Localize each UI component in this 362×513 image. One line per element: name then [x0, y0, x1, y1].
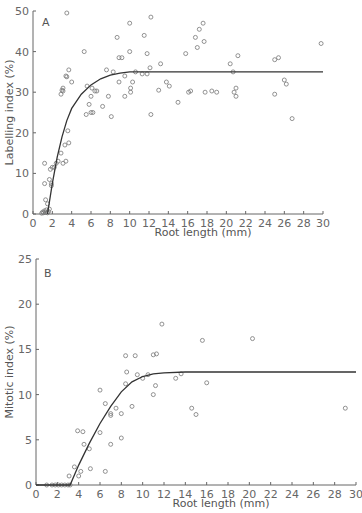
data-point [167, 84, 171, 88]
data-point [77, 474, 81, 478]
data-point [79, 469, 83, 473]
x-tick-label: 28 [297, 217, 311, 230]
data-point [131, 80, 135, 84]
y-tick-label: 10 [15, 167, 29, 180]
x-tick-label: 6 [88, 217, 95, 230]
data-point [277, 56, 281, 60]
data-point [145, 52, 149, 56]
data-point [129, 90, 133, 94]
data-point [59, 151, 63, 155]
x-tick-label: 28 [328, 488, 342, 501]
x-tick-label: 26 [306, 488, 320, 501]
data-point [149, 15, 153, 19]
y-tick-label: 20 [18, 298, 32, 311]
data-point [82, 50, 86, 54]
data-point [232, 90, 236, 94]
data-point [72, 465, 76, 469]
data-point [64, 159, 68, 163]
data-point [319, 42, 323, 46]
y-tick-label: 0 [25, 479, 32, 492]
data-point [119, 436, 123, 440]
data-point [67, 68, 71, 72]
data-point [103, 402, 107, 406]
data-point [76, 429, 80, 433]
data-point [135, 373, 139, 377]
y-tick-label: 20 [15, 127, 29, 140]
x-tick-label: 2 [54, 488, 61, 501]
data-point [203, 90, 207, 94]
data-point [176, 100, 180, 104]
data-point [130, 404, 134, 408]
data-point [81, 430, 85, 434]
x-tick-label: 4 [75, 488, 82, 501]
data-point [114, 406, 118, 410]
panel-label: A [42, 16, 50, 29]
x-tick-label: 10 [123, 217, 137, 230]
data-point [120, 56, 124, 60]
data-point [47, 178, 51, 182]
y-tick-label: 0 [22, 208, 29, 221]
data-point [234, 94, 238, 98]
x-tick-label: 12 [157, 488, 171, 501]
data-point [109, 442, 113, 446]
data-point [251, 337, 255, 341]
data-point [123, 74, 127, 78]
data-point [115, 35, 119, 39]
data-point [195, 46, 199, 50]
y-axis-label: Labelling index (%) [3, 60, 16, 166]
x-tick-label: 4 [68, 217, 75, 230]
data-point [284, 82, 288, 86]
data-point [154, 384, 158, 388]
data-point [215, 90, 219, 94]
data-point [149, 113, 153, 117]
x-tick-label: 6 [97, 488, 104, 501]
x-tick-label: 24 [258, 217, 272, 230]
data-point [124, 354, 128, 358]
data-point [119, 412, 123, 416]
data-point [128, 50, 132, 54]
data-point [273, 58, 277, 62]
data-point [44, 198, 48, 202]
x-tick-label: 0 [33, 488, 40, 501]
data-point [117, 80, 121, 84]
figure: 02468101214161820222426283001020304050Ro… [0, 0, 362, 513]
data-point [234, 86, 238, 90]
data-point [43, 182, 47, 186]
data-point [63, 143, 67, 147]
data-point [43, 161, 47, 165]
y-tick-label: 5 [25, 434, 32, 447]
x-tick-label: 0 [30, 217, 37, 230]
data-point [98, 388, 102, 392]
x-axis-label: Root length (mm) [155, 226, 252, 239]
y-tick-label: 50 [15, 5, 29, 18]
fitted-curve [36, 372, 356, 485]
y-tick-label: 40 [15, 46, 29, 59]
data-point [273, 92, 277, 96]
x-tick-label: 8 [107, 217, 114, 230]
y-tick-label: 30 [15, 86, 29, 99]
data-point [236, 54, 240, 58]
x-tick-label: 8 [118, 488, 125, 501]
x-tick-label: 24 [285, 488, 299, 501]
data-point [109, 115, 113, 119]
data-point [88, 467, 92, 471]
data-point [160, 322, 164, 326]
data-point [111, 70, 115, 74]
y-tick-label: 10 [18, 389, 32, 402]
data-point [184, 52, 188, 56]
data-point [151, 393, 155, 397]
data-point [190, 406, 194, 410]
x-tick-label: 26 [277, 217, 291, 230]
data-point [103, 469, 107, 473]
fitted-curve [48, 72, 324, 214]
data-point [123, 94, 127, 98]
data-point [70, 80, 74, 84]
x-tick-label: 10 [136, 488, 150, 501]
data-point [106, 94, 110, 98]
data-point [125, 370, 129, 374]
data-point [87, 102, 91, 106]
data-point [61, 89, 65, 93]
data-point [67, 141, 71, 145]
data-point [157, 88, 161, 92]
data-point [282, 78, 286, 82]
